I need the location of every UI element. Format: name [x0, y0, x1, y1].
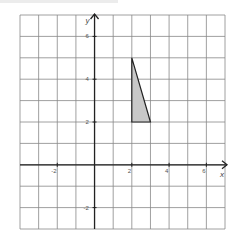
y-tick-label: -2	[84, 205, 90, 211]
y-axis-label: y	[85, 16, 91, 25]
x-tick-label: -2	[51, 168, 57, 174]
x-tick-label: 6	[202, 168, 206, 174]
coordinate-grid: xy-2246642-2	[0, 0, 239, 241]
x-axis-label: x	[219, 170, 225, 179]
triangle-shape	[132, 58, 151, 122]
x-tick-label: 4	[165, 168, 169, 174]
x-tick-label: 2	[128, 168, 132, 174]
